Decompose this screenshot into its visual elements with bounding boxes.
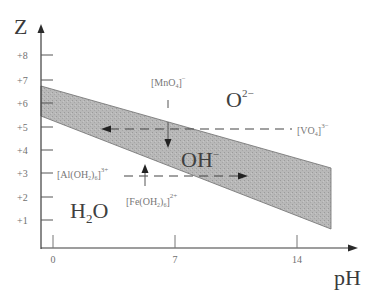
- y-tick-label: +3: [17, 168, 28, 179]
- y-tick-label: +7: [17, 75, 28, 86]
- y-tick-label: +8: [17, 50, 28, 61]
- species-aluminium-aqua: [Al(OH2)6]3+: [57, 166, 108, 181]
- species-iron-aqua: [Fe(OH2)6]2+: [126, 192, 177, 208]
- x-tick-label: 7: [173, 254, 178, 265]
- x-axis-arrow-icon: [348, 245, 358, 252]
- y-tick-label: +5: [17, 122, 28, 133]
- region-label-oxide: O2−: [226, 87, 254, 112]
- region-label-water: H2O: [70, 198, 108, 226]
- arrow-up-icon: [142, 164, 149, 173]
- species-vanadate: [VO4]3−: [297, 122, 329, 137]
- y-ticks: [41, 55, 53, 220]
- y-tick-label: +6: [17, 98, 28, 109]
- y-axis-arrow-icon: [38, 24, 45, 33]
- y-axis-title: Z: [14, 14, 27, 39]
- oxidation-state-ph-diagram: Z pH +8 +7 +6 +5 +4 +3 +2 +1 0 7 14 O2− …: [0, 0, 382, 308]
- y-tick-label: +1: [17, 215, 28, 226]
- x-ticks: [53, 235, 297, 248]
- x-axis-title: pH: [334, 265, 361, 290]
- x-tick-label: 0: [51, 254, 56, 265]
- y-tick-label: +4: [17, 145, 28, 156]
- species-permanganate: [MnO4]−: [151, 75, 186, 89]
- x-tick-label: 14: [292, 254, 302, 265]
- y-tick-label: +2: [17, 192, 28, 203]
